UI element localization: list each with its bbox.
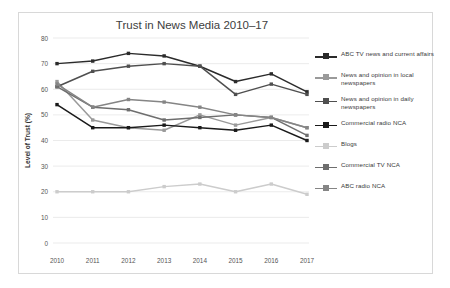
x-axis-tick-label: 2017 [300, 257, 315, 264]
data-point [305, 193, 308, 196]
y-axis-tick-label: 40 [41, 137, 49, 144]
data-point [234, 129, 237, 132]
data-point [127, 52, 130, 55]
y-axis-label: Level of Trust (%) [24, 113, 32, 168]
data-point [234, 190, 237, 193]
x-axis-tick-label: 2016 [264, 257, 279, 264]
data-point [198, 64, 201, 67]
legend-item[interactable]: ABC TV news and current affairs [315, 50, 443, 64]
data-point [162, 100, 165, 103]
y-axis-tick-label: 70 [41, 60, 49, 67]
data-point [198, 126, 201, 129]
data-point [91, 59, 94, 62]
legend-item-label: News and opinion in local newspapers [341, 71, 443, 88]
data-point [270, 116, 273, 119]
legend-item-label: ABC TV news and current affairs [341, 50, 434, 58]
series-line [57, 84, 307, 128]
legend-item-label: News and opinion in daily newspapers [341, 95, 443, 112]
legend-marker-icon [315, 52, 337, 62]
data-point [305, 93, 308, 96]
data-point [55, 62, 58, 65]
y-axis-tick-label: 80 [41, 35, 49, 42]
data-point [127, 126, 130, 129]
data-point [55, 82, 58, 85]
data-point [162, 118, 165, 121]
data-point [305, 139, 308, 142]
legend-item-label: Commercial TV NCA [341, 161, 400, 169]
data-point [91, 118, 94, 121]
chart-legend: ABC TV news and current affairsNews and … [315, 50, 443, 203]
data-point [270, 72, 273, 75]
series-4 [55, 182, 308, 196]
data-point [127, 190, 130, 193]
data-point [234, 123, 237, 126]
chart-title: Trust in News Media 2010–17 [116, 19, 268, 31]
x-axis-tick-label: 2014 [193, 257, 208, 264]
data-point [198, 105, 201, 108]
legend-marker-icon [315, 163, 337, 173]
data-point [162, 129, 165, 132]
legend-item-label: ABC radio NCA [341, 182, 385, 190]
y-axis-tick-label: 30 [41, 163, 49, 170]
legend-item-label: Blogs [341, 140, 357, 148]
x-axis-tick-label: 2015 [228, 257, 243, 264]
x-axis-tick-label: 2010 [50, 257, 65, 264]
data-point [55, 190, 58, 193]
y-axis-tick-label: 20 [41, 188, 49, 195]
data-point [127, 64, 130, 67]
series-line [57, 64, 307, 95]
series-line [57, 53, 307, 91]
x-axis-tick-label: 2012 [121, 257, 136, 264]
legend-item[interactable]: News and opinion in daily newspapers [315, 95, 443, 112]
legend-marker-icon [315, 73, 337, 83]
x-axis-tick-label: 2011 [86, 257, 100, 264]
data-point [91, 190, 94, 193]
data-point [162, 62, 165, 65]
legend-item[interactable]: ABC radio NCA [315, 182, 443, 196]
data-point [91, 105, 94, 108]
legend-item[interactable]: News and opinion in local newspapers [315, 71, 443, 88]
data-point [270, 82, 273, 85]
data-point [162, 123, 165, 126]
data-point [305, 126, 308, 129]
data-point [127, 98, 130, 101]
chart-figure: Trust in News Media 2010–170102030405060… [0, 0, 450, 288]
data-point [162, 54, 165, 57]
data-point [127, 108, 130, 111]
series-line [57, 184, 307, 194]
data-point [234, 93, 237, 96]
y-axis-tick-label: 60 [41, 86, 49, 93]
data-point [91, 126, 94, 129]
data-point [270, 123, 273, 126]
legend-item[interactable]: Commercial radio NCA [315, 119, 443, 133]
data-point [91, 70, 94, 73]
legend-item[interactable]: Blogs [315, 140, 443, 154]
legend-item-label: Commercial radio NCA [341, 119, 406, 127]
legend-item[interactable]: Commercial TV NCA [315, 161, 443, 175]
y-axis-tick-label: 10 [41, 214, 49, 221]
data-point [305, 134, 308, 137]
data-point [234, 80, 237, 83]
series-2 [55, 62, 308, 96]
data-point [198, 182, 201, 185]
y-axis-tick-label: 0 [44, 240, 48, 247]
legend-marker-icon [315, 97, 337, 107]
legend-marker-icon [315, 121, 337, 131]
data-point [198, 116, 201, 119]
legend-marker-icon [315, 184, 337, 194]
data-point [234, 113, 237, 116]
data-point [162, 185, 165, 188]
data-point [270, 182, 273, 185]
legend-marker-icon [315, 142, 337, 152]
x-axis-tick-label: 2013 [157, 257, 172, 264]
y-axis-tick-label: 50 [41, 111, 49, 118]
data-point [55, 103, 58, 106]
